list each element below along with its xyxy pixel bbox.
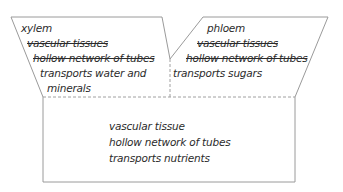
right-flap-line-1: transports sugars (173, 67, 262, 79)
right-flap-title: phloem (207, 22, 245, 34)
right-flap-crossed-2: hollow network of tubes (186, 52, 307, 64)
base-line-1: vascular tissue (109, 120, 185, 132)
left-flap-line-1: transports water and (40, 67, 146, 79)
left-flap-title: xylem (21, 22, 52, 34)
left-flap-crossed-1: vascular tissues (27, 37, 108, 49)
right-flap-crossed-1: vascular tissues (197, 37, 278, 49)
base-line-3: transports nutrients (109, 152, 210, 164)
base-line-2: hollow network of tubes (109, 136, 230, 148)
left-flap-crossed-2: hollow network of tubes (33, 52, 154, 64)
left-flap-line-2: minerals (47, 82, 91, 94)
